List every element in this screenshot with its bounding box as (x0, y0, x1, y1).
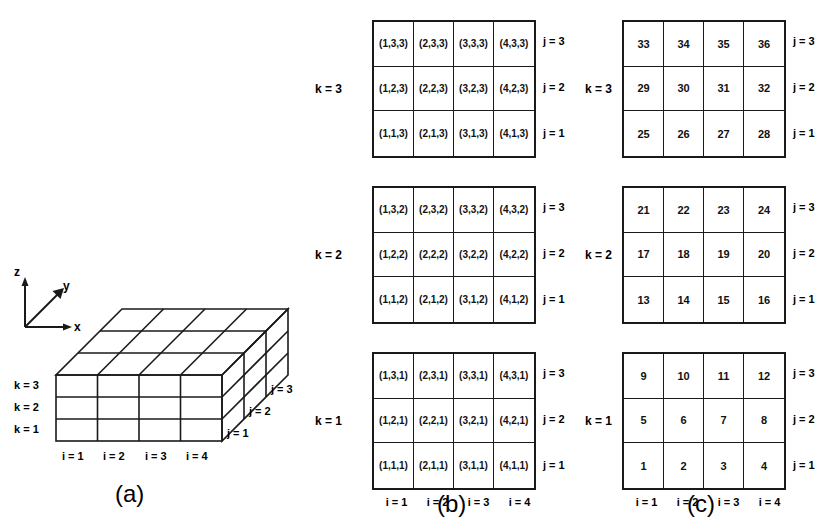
table-cell: (1,2,1) (374, 399, 414, 444)
table-cell: (3,1,3) (454, 111, 494, 156)
table-cell: 28 (744, 111, 784, 156)
table-cell: (2,2,2) (414, 233, 454, 278)
table-cell: 15 (704, 277, 744, 322)
table-cell: (1,2,3) (374, 67, 414, 112)
table-cell: 27 (704, 111, 744, 156)
panel-b-k1-j-label-1: j = 1 (543, 459, 565, 471)
table-cell: 3 (704, 443, 744, 488)
table-cell: (4,2,2) (494, 233, 534, 278)
panel-a-i-label-3: i = 3 (145, 451, 167, 462)
panel-c-k1-j-label-2: j = 2 (793, 413, 815, 425)
table-cell: (2,3,1) (414, 354, 454, 399)
table-cell: 11 (704, 354, 744, 399)
panel-c-caption: (c) (687, 492, 715, 516)
table-cell: 10 (664, 354, 704, 399)
panel-b-k-label-1: k = 1 (315, 414, 342, 428)
table-cell: (1,3,3) (374, 22, 414, 67)
table-cell: 25 (624, 111, 664, 156)
panel-c-k1-j-label-3: j = 3 (793, 367, 815, 379)
table-cell: 8 (744, 399, 784, 444)
panel-b-k1-j-label-2: j = 2 (543, 413, 565, 425)
panel-c-k-label-3: k = 3 (585, 82, 612, 96)
panel-c-k2-j-label-3: j = 3 (793, 201, 815, 213)
table-cell: 35 (704, 22, 744, 67)
panel-a-caption: (a) (115, 482, 144, 506)
table-cell: (3,2,2) (454, 233, 494, 278)
table-cell: (2,1,1) (414, 443, 454, 488)
table-cell: 24 (744, 188, 784, 233)
table-cell: (4,1,1) (494, 443, 534, 488)
table-cell: (1,2,2) (374, 233, 414, 278)
panel-a-k-label-2: k = 2 (14, 402, 39, 413)
panel-a-k-label-1: k = 1 (14, 424, 39, 435)
table-cell: (1,1,1) (374, 443, 414, 488)
table-cell: 12 (744, 354, 784, 399)
table-cell: (1,3,2) (374, 188, 414, 233)
panel-c-k-label-2: k = 2 (585, 248, 612, 262)
table-cell: (4,1,2) (494, 277, 534, 322)
table-cell: (2,3,2) (414, 188, 454, 233)
table-cell: 9 (624, 354, 664, 399)
panel-a-k-label-3: k = 3 (14, 380, 39, 391)
panel-a-j-label-2: j = 2 (249, 406, 271, 417)
table-cell: 13 (624, 277, 664, 322)
axis-label-z: z (14, 266, 20, 278)
panel-c-k1-j-label-1: j = 1 (793, 459, 815, 471)
table-cell: 21 (624, 188, 664, 233)
panel-a-i-label-1: i = 1 (62, 451, 84, 462)
table-cell: 5 (624, 399, 664, 444)
table-cell: (4,1,3) (494, 111, 534, 156)
block-3d-drawing (0, 260, 290, 529)
panel-a-i-label-2: i = 2 (103, 451, 125, 462)
panel-b-grid-k1: (1,3,1) (2,3,1) (3,3,1) (4,3,1) (1,2,1) … (372, 352, 536, 490)
axis-label-y: y (63, 280, 70, 292)
panel-c-k2-j-label-2: j = 2 (793, 247, 815, 259)
panel-b-k-label-3: k = 3 (315, 82, 342, 96)
table-cell: (2,1,3) (414, 111, 454, 156)
panel-c-grid-k3: 33 34 35 36 29 30 31 32 25 26 27 28 (622, 20, 786, 158)
table-cell: (2,2,3) (414, 67, 454, 112)
table-cell: 1 (624, 443, 664, 488)
table-cell: 20 (744, 233, 784, 278)
table-cell: 19 (704, 233, 744, 278)
panel-b-k3-j-label-1: j = 1 (543, 127, 565, 139)
table-cell: (3,3,1) (454, 354, 494, 399)
panel-c-i-label-4: i = 4 (749, 496, 790, 508)
table-cell: 34 (664, 22, 704, 67)
panel-c-k3-j-label-3: j = 3 (793, 35, 815, 47)
table-cell: 26 (664, 111, 704, 156)
panel-b-i-label-4: i = 4 (499, 496, 540, 508)
table-cell: 16 (744, 277, 784, 322)
panel-c-k-label-1: k = 1 (585, 414, 612, 428)
table-cell: 22 (664, 188, 704, 233)
table-cell: 23 (704, 188, 744, 233)
table-cell: (1,1,2) (374, 277, 414, 322)
panel-b-i-label-1: i = 1 (376, 496, 417, 508)
panel-a-3d-block: z y x k = 3 k = 2 k = 1 i = 1 i = 2 i = … (0, 260, 290, 529)
table-cell: (2,3,3) (414, 22, 454, 67)
panel-b-grid-k3: (1,3,3) (2,3,3) (3,3,3) (4,3,3) (1,2,3) … (372, 20, 536, 158)
table-cell: 18 (664, 233, 704, 278)
table-cell: 31 (704, 67, 744, 112)
panel-b-k2-j-label-3: j = 3 (543, 201, 565, 213)
panel-c-i-label-1: i = 1 (626, 496, 667, 508)
table-cell: (3,2,1) (454, 399, 494, 444)
table-cell: (2,1,2) (414, 277, 454, 322)
table-cell: 36 (744, 22, 784, 67)
table-cell: (4,2,1) (494, 399, 534, 444)
table-cell: 17 (624, 233, 664, 278)
axis-label-x: x (74, 321, 81, 333)
table-cell: (2,2,1) (414, 399, 454, 444)
panel-b-k2-j-label-1: j = 1 (543, 293, 565, 305)
panel-b-caption: (b) (437, 492, 466, 516)
table-cell: (4,3,2) (494, 188, 534, 233)
table-cell: (3,1,2) (454, 277, 494, 322)
table-cell: 14 (664, 277, 704, 322)
figure-grid-indexing: z y x k = 3 k = 2 k = 1 i = 1 i = 2 i = … (0, 0, 829, 529)
panel-b-k1-j-label-3: j = 3 (543, 367, 565, 379)
table-cell: 29 (624, 67, 664, 112)
table-cell: 7 (704, 399, 744, 444)
table-cell: (3,3,3) (454, 22, 494, 67)
panel-c-k3-j-label-1: j = 1 (793, 127, 815, 139)
panel-a-j-label-3: j = 3 (271, 384, 293, 395)
